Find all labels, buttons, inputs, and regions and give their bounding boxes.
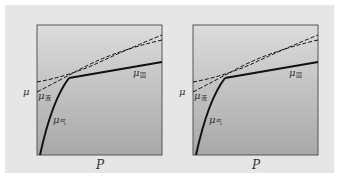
x-axis-label: P	[96, 159, 104, 171]
label-mu-solid: μ固	[289, 68, 302, 78]
label-mu-solid: μ固	[133, 68, 146, 78]
x-axis-label: P	[252, 159, 260, 171]
y-axis-label: μ	[179, 87, 186, 97]
label-mu-gas: μ气	[209, 115, 222, 125]
phase-diagram-right: μ P μ固 μ液 μ气	[156, 0, 326, 180]
phase-diagram-left: μ P μ固 μ液 μ气	[0, 0, 170, 180]
label-mu-liquid: μ液	[194, 91, 207, 101]
label-mu-gas: μ气	[53, 115, 66, 125]
y-axis-label: μ	[23, 87, 30, 97]
label-mu-liquid: μ液	[38, 91, 51, 101]
